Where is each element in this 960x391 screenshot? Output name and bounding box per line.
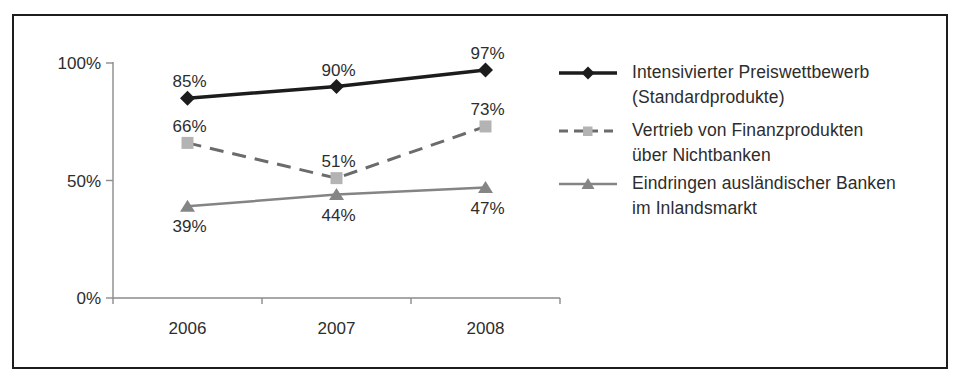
diamond-marker: [478, 63, 493, 78]
y-tick-label: 100%: [58, 54, 101, 73]
data-label: 44%: [321, 206, 355, 225]
y-tick-label: 50%: [67, 172, 101, 191]
diamond-marker: [329, 79, 344, 94]
data-label: 97%: [470, 44, 504, 63]
square-marker: [480, 120, 492, 132]
legend-marker-diamond-line: [558, 65, 618, 81]
data-label: 90%: [321, 61, 355, 80]
data-label: 73%: [470, 100, 504, 119]
square-marker: [331, 172, 343, 184]
legend-item-finanzprodukte: Vertrieb von Finanzprodukten über Nichtb…: [558, 118, 863, 168]
legend-label-line: über Nichtbanken: [632, 143, 863, 168]
y-tick-label: 0%: [76, 289, 101, 308]
legend-label-line: Vertrieb von Finanzprodukten: [632, 118, 863, 143]
data-label: 66%: [172, 117, 206, 136]
square-marker: [182, 137, 194, 149]
diamond-marker: [180, 91, 195, 106]
data-label: 39%: [172, 217, 206, 236]
legend-label-line: (Standardprodukte): [632, 85, 869, 110]
x-tick-label: 2006: [169, 319, 207, 338]
legend-label-line: im Inlandsmarkt: [632, 196, 896, 221]
data-label: 51%: [321, 152, 355, 171]
legend-label-line: Eindringen ausländischer Banken: [632, 171, 896, 196]
data-label: 47%: [470, 199, 504, 218]
data-label: 85%: [172, 72, 206, 91]
legend-marker-square-dashed-line: [558, 123, 618, 139]
legend-item-preiswettbewerb: Intensivierter Preiswettbewerb (Standard…: [558, 60, 869, 110]
legend-label-line: Intensivierter Preiswettbewerb: [632, 60, 869, 85]
legend-marker-triangle-line: [558, 176, 618, 192]
chart-figure: 0%50%100%20062007200885%90%97%66%51%73%3…: [0, 0, 960, 391]
x-tick-label: 2007: [318, 319, 356, 338]
legend-item-auslaendische-banken: Eindringen ausländischer Banken im Inlan…: [558, 171, 896, 221]
x-tick-label: 2008: [467, 319, 505, 338]
